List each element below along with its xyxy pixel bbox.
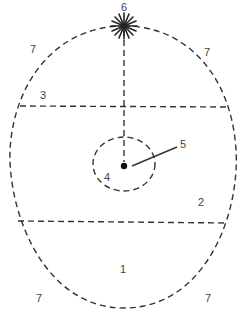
- label-5: 5: [180, 139, 186, 150]
- label-7-bottom-right: 7: [205, 293, 211, 304]
- label-7-top-left: 7: [30, 44, 36, 55]
- center-dot: [121, 163, 127, 169]
- label-3: 3: [40, 90, 46, 101]
- label-7-top-right: 7: [204, 47, 210, 58]
- label-4: 4: [104, 172, 110, 183]
- label-1: 1: [120, 264, 126, 275]
- label-7-bottom-left: 7: [36, 293, 42, 304]
- lower-chord-line: [18, 221, 228, 223]
- star-burst-icon: [111, 13, 137, 39]
- label-2: 2: [198, 197, 204, 208]
- label-6: 6: [121, 2, 127, 13]
- upper-chord-line: [20, 106, 228, 107]
